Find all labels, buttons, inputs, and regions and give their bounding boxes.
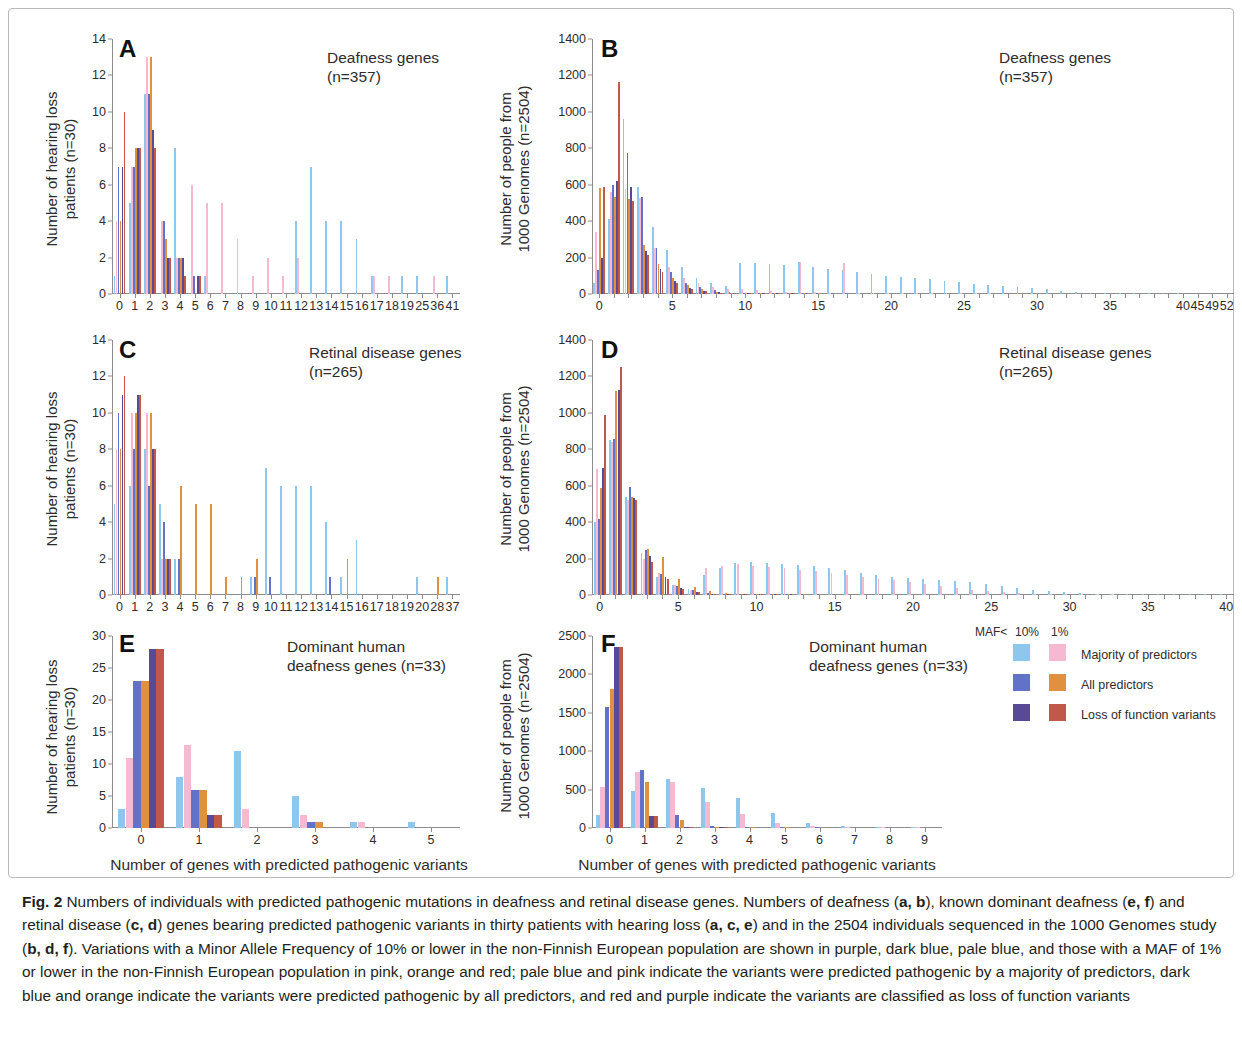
ytick-mark (108, 636, 112, 637)
bar (705, 568, 707, 595)
bar (437, 577, 439, 595)
panel-d-xtick: 5 (675, 595, 682, 614)
panel-f-ytick: 2000 (558, 667, 592, 681)
ytick-mark (588, 75, 592, 76)
panel-f-ytick: 2500 (558, 629, 592, 643)
bar (388, 276, 390, 294)
bar (174, 559, 176, 595)
panel-f-xtick: 4 (746, 828, 753, 847)
bar (214, 815, 222, 828)
bar (1157, 594, 1159, 595)
xtick-mark (772, 595, 773, 599)
panel-f-xtick: 3 (711, 828, 718, 847)
ytick-mark (108, 39, 112, 40)
bar (940, 586, 942, 595)
ytick-mark (108, 732, 112, 733)
ytick-mark (108, 221, 112, 222)
bar (873, 293, 875, 294)
panel-c-xtick: 37 (445, 595, 459, 614)
bar (295, 486, 297, 595)
ytick-mark (588, 485, 592, 486)
bar (139, 395, 141, 595)
ytick-mark (588, 376, 592, 377)
bar (169, 258, 171, 294)
bar (154, 148, 156, 294)
bar (207, 815, 215, 828)
bar (651, 562, 653, 595)
panel-b-xtick: 0 (596, 294, 603, 313)
ytick-mark (588, 294, 592, 295)
ytick-mark (108, 558, 112, 559)
bar (871, 274, 873, 294)
panel-f-xtick: 9 (921, 828, 928, 847)
xtick-mark (1081, 294, 1082, 298)
bar (325, 221, 327, 294)
panel-a-xtick: 11 (280, 294, 293, 313)
bar (737, 564, 739, 595)
xtick-mark (658, 294, 659, 298)
bar (915, 827, 920, 828)
xtick-mark (882, 595, 883, 599)
xtick-mark (803, 595, 804, 599)
xtick-mark (960, 595, 961, 599)
xtick-mark (1179, 595, 1180, 599)
bar (691, 289, 693, 294)
bar (647, 255, 649, 294)
xtick-mark (949, 294, 950, 298)
bar (740, 814, 745, 828)
xtick-mark (725, 595, 726, 599)
panel-c-xtick: 2 (146, 595, 153, 614)
bar (210, 504, 212, 595)
bar (199, 276, 201, 294)
bar (401, 276, 403, 294)
ytick-mark (108, 294, 112, 295)
bar (604, 415, 606, 595)
xtick-mark (804, 294, 805, 298)
panel-f-xtick: 1 (641, 828, 648, 847)
panel-d-xtick: 30 (1063, 595, 1077, 614)
xtick-mark (1066, 294, 1067, 298)
bar (241, 577, 243, 595)
bar (620, 367, 622, 595)
xtick-mark (1164, 595, 1165, 599)
xtick-mark (628, 294, 629, 298)
xtick-mark (1117, 595, 1118, 599)
xtick-mark (1139, 294, 1140, 298)
panel-e-ylabel: Number of hearing losspatients (n=30) (43, 622, 80, 852)
xtick-mark (687, 294, 688, 298)
xtick-mark (1095, 294, 1096, 298)
panel-b-xtick: 52 (1220, 294, 1234, 313)
xtick-mark (788, 595, 789, 599)
bar (154, 449, 156, 595)
ytick-mark (108, 764, 112, 765)
panel-c-xtick: 9 (252, 595, 259, 614)
panel-c-xtick: 3 (161, 595, 168, 614)
xtick-mark (850, 595, 851, 599)
bar (714, 594, 716, 595)
ytick-mark (588, 522, 592, 523)
panel-b-xtick: 25 (957, 294, 971, 313)
panel-c-xtick: 8 (237, 595, 244, 614)
panel-d-ytick: 1200 (558, 369, 592, 383)
panel-b-xtick: 10 (738, 294, 752, 313)
panel-e-xtick: 0 (138, 828, 145, 847)
ytick-mark (588, 751, 592, 752)
xtick-mark (906, 294, 907, 298)
ytick-mark (108, 668, 112, 669)
panel-d-ylabel: Number of people from1000 Genomes (n=250… (497, 337, 534, 601)
bar (1119, 293, 1121, 294)
panel-a-xtick: 7 (222, 294, 229, 313)
bar (776, 594, 778, 595)
panel-c-xtick: 28 (430, 595, 444, 614)
panel-b-ytick: 1200 (558, 68, 592, 82)
bar (1126, 594, 1128, 595)
panel-a-xtick: 10 (264, 294, 278, 313)
panel-c-xtick: 16 (355, 595, 369, 614)
bar (914, 278, 916, 294)
bar (139, 148, 141, 294)
xtick-mark (709, 595, 710, 599)
bar (169, 559, 171, 595)
bar (793, 293, 795, 294)
bar (292, 796, 300, 828)
xtick-mark (979, 294, 980, 298)
